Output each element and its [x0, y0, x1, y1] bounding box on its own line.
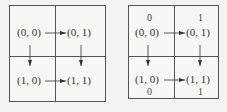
arrow-down-icon: [148, 45, 200, 66]
arrow-right-icon: [164, 33, 185, 80]
right-grid-arrows: [0, 0, 227, 112]
